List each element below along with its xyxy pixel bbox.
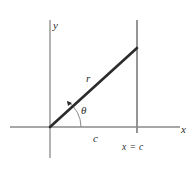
- x-axis-label: x: [180, 123, 186, 135]
- radius-label: r: [86, 72, 91, 84]
- angle-theta-label: θ: [81, 104, 87, 116]
- radius-ray-line: [50, 48, 137, 127]
- base-segment-label: c: [93, 132, 98, 144]
- diagram-canvas: y x r θ c x = c: [0, 0, 195, 171]
- y-axis-label: y: [52, 19, 58, 31]
- vertical-line-label: x = c: [121, 142, 144, 152]
- geometry-figure: y x r θ c x = c: [0, 0, 195, 171]
- angle-arc-arrowhead: [67, 101, 72, 106]
